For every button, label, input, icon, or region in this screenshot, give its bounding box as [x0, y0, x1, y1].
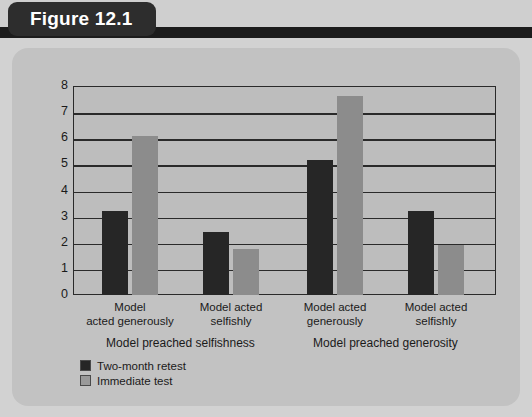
bar-immediate-test-2 [337, 96, 363, 295]
y-tick-label-7: 7 [42, 104, 68, 118]
figure-number-label: Figure 12.1 [30, 8, 133, 30]
y-tick-label-8: 8 [42, 78, 68, 92]
x-category-label-2: Model actedgenerously [279, 300, 391, 328]
legend-item-1: Immediate test [80, 373, 186, 388]
x-category-label-1: Model actedselfishly [175, 300, 287, 328]
bar-two-month-retest-1 [203, 232, 229, 295]
x-label-line2: generously [279, 314, 391, 328]
chart-plot-wrapper [73, 86, 496, 295]
bar-two-month-retest-3 [408, 211, 434, 295]
y-axis-tick-labels: 876543210 [38, 86, 68, 295]
x-category-label-0: Modelacted generously [74, 300, 186, 328]
y-tick-label-4: 4 [42, 183, 68, 197]
x-label-line2: selfishly [380, 314, 492, 328]
chart-bars-layer [73, 86, 496, 295]
y-tick-label-2: 2 [42, 235, 68, 249]
x-group-label-0: Model preached selfishness [91, 336, 271, 350]
bar-immediate-test-0 [132, 136, 158, 295]
x-label-line2: selfishly [175, 314, 287, 328]
x-label-line2: acted generously [74, 314, 186, 328]
bar-immediate-test-1 [233, 249, 259, 295]
y-tick-label-0: 0 [42, 287, 68, 301]
legend-item-0: Two-month retest [80, 358, 186, 373]
chart-legend: Two-month retestImmediate test [80, 358, 186, 388]
x-category-label-3: Model actedselfishly [380, 300, 492, 328]
y-tick-label-6: 6 [42, 130, 68, 144]
bar-immediate-test-3 [438, 245, 464, 295]
legend-swatch-icon-1 [80, 375, 91, 386]
figure-number-tab: Figure 12.1 [8, 2, 156, 36]
legend-swatch-icon-0 [80, 360, 91, 371]
x-label-line1: Model acted [380, 300, 492, 314]
x-group-label-1: Model preached generosity [296, 336, 476, 350]
y-tick-label-1: 1 [42, 261, 68, 275]
x-label-line1: Model [74, 300, 186, 314]
y-tick-label-5: 5 [42, 156, 68, 170]
legend-label-1: Immediate test [97, 375, 172, 387]
bar-two-month-retest-0 [102, 211, 128, 295]
bar-two-month-retest-2 [307, 160, 333, 295]
legend-label-0: Two-month retest [97, 360, 186, 372]
x-label-line1: Model acted [175, 300, 287, 314]
x-label-line1: Model acted [279, 300, 391, 314]
y-axis-title: Mean number of tokens donated [0, 0, 1, 110]
y-tick-label-3: 3 [42, 209, 68, 223]
